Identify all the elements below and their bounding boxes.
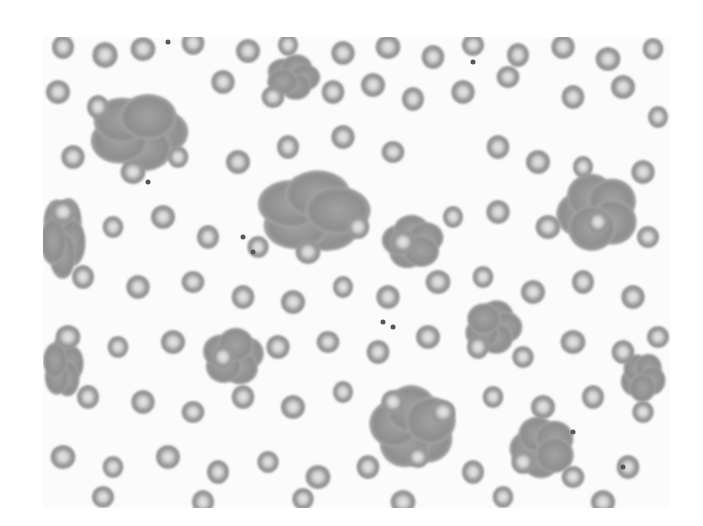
red-blood-cell	[281, 290, 305, 314]
red-blood-cell	[521, 280, 545, 304]
red-blood-cell	[493, 486, 514, 508]
red-blood-cell	[266, 335, 290, 359]
platelet	[471, 60, 476, 65]
red-blood-cell	[226, 150, 250, 174]
red-blood-cell	[443, 206, 463, 228]
red-blood-cell	[562, 466, 585, 488]
red-blood-cell	[587, 210, 610, 234]
red-blood-cell	[182, 271, 205, 293]
red-blood-cell	[621, 285, 645, 309]
red-blood-cell	[207, 460, 229, 484]
red-blood-cell	[631, 160, 655, 184]
red-blood-cell	[497, 66, 520, 88]
red-blood-cell	[647, 326, 669, 348]
red-blood-cell	[292, 488, 314, 508]
red-blood-cell	[486, 200, 510, 224]
cell-clumps	[43, 54, 666, 478]
red-blood-cell	[197, 225, 219, 249]
red-blood-cell	[612, 340, 635, 364]
red-blood-cell	[632, 401, 654, 423]
red-blood-cell	[473, 266, 494, 288]
red-blood-cell	[103, 216, 124, 238]
red-blood-cell	[296, 240, 321, 264]
red-blood-cell	[451, 80, 475, 104]
red-blood-cell	[331, 125, 355, 149]
red-blood-cell	[333, 381, 353, 403]
red-blood-cell	[92, 42, 117, 68]
red-blood-cell	[281, 395, 305, 419]
red-blood-cell	[357, 455, 380, 479]
red-blood-cell	[51, 200, 76, 224]
red-blood-cell	[131, 37, 156, 61]
red-blood-cell	[462, 460, 484, 484]
platelet	[166, 40, 171, 45]
red-blood-cell	[572, 270, 594, 294]
red-blood-cell	[182, 37, 205, 55]
red-blood-cell	[367, 340, 390, 364]
red-blood-cell	[511, 450, 535, 474]
red-blood-cell	[87, 95, 109, 119]
red-blood-cell	[402, 87, 424, 111]
red-blood-cell	[648, 106, 668, 128]
red-blood-cell	[391, 230, 415, 254]
red-blood-cell	[483, 386, 504, 408]
red-blood-cell	[168, 146, 189, 168]
platelet	[391, 325, 396, 330]
red-blood-cell	[382, 141, 405, 163]
red-blood-cell	[591, 490, 615, 508]
blood-smear-image	[43, 37, 670, 508]
red-blood-cell	[51, 445, 76, 469]
red-blood-cell	[72, 265, 94, 289]
red-blood-cell	[637, 226, 659, 248]
red-blood-cell	[617, 455, 640, 479]
red-blood-cell	[331, 41, 355, 65]
red-blood-cell	[151, 205, 175, 229]
red-blood-cell	[52, 37, 74, 59]
red-blood-cell	[467, 335, 489, 359]
red-blood-cell	[462, 37, 484, 56]
red-blood-cell	[56, 325, 81, 349]
red-blood-cell	[526, 150, 550, 174]
red-blood-cell	[333, 276, 353, 298]
micrograph-frame	[43, 37, 670, 508]
red-blood-cell	[596, 47, 621, 71]
red-blood-cell	[562, 85, 585, 109]
red-blood-cell	[103, 456, 124, 478]
red-blood-cell	[121, 160, 146, 184]
red-blood-cell	[232, 285, 255, 309]
red-blood-cell	[126, 275, 150, 299]
red-blood-cell	[161, 330, 185, 354]
red-blood-cell	[507, 43, 529, 67]
red-blood-cell	[262, 86, 285, 108]
red-blood-cell	[426, 270, 451, 294]
red-blood-cell	[582, 385, 604, 409]
platelet	[571, 430, 576, 435]
red-blood-cell	[46, 80, 70, 104]
red-blood-cell	[381, 390, 405, 414]
red-blood-cell	[212, 345, 234, 369]
platelet	[146, 180, 151, 185]
red-blood-cell	[416, 325, 440, 349]
platelet	[381, 320, 386, 325]
red-blood-cell	[422, 45, 445, 69]
red-blood-cell	[92, 486, 114, 508]
red-blood-cell	[376, 37, 401, 59]
red-blood-cell	[277, 135, 299, 159]
cell-clump	[467, 303, 501, 334]
red-blood-cell	[407, 446, 429, 468]
red-blood-cell	[278, 37, 298, 56]
red-blood-cell	[561, 330, 586, 354]
red-blood-cell	[232, 385, 255, 409]
red-blood-cell	[77, 385, 99, 409]
red-blood-cell	[376, 285, 400, 309]
red-blood-cell	[643, 38, 664, 60]
red-blood-cell	[551, 37, 575, 59]
red-blood-cell	[257, 451, 279, 473]
red-blood-cell	[211, 70, 235, 94]
red-blood-cell	[108, 336, 129, 358]
cell-clump	[119, 94, 177, 140]
red-blood-cell	[131, 390, 155, 414]
red-blood-cell	[306, 465, 331, 489]
red-blood-cell	[531, 395, 555, 419]
red-blood-cell	[536, 215, 561, 239]
